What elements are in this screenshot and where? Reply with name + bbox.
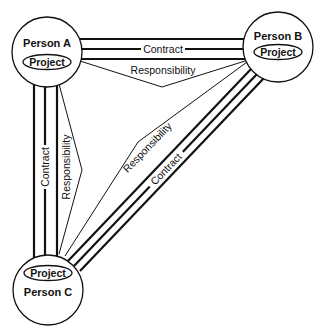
node-person-b: Person B Project (243, 12, 313, 82)
node-person-a: Person A Project (12, 17, 82, 87)
edge-a-c: Contract Responsibility (34, 84, 82, 258)
ac-contract-label: Contract (39, 147, 51, 187)
project-c-label: Project (30, 267, 66, 279)
ab-contract-label: Contract (143, 43, 183, 55)
bc-line-1 (68, 68, 252, 261)
person-a-label: Person A (23, 37, 71, 49)
bc-responsibility-shape (65, 62, 247, 256)
edge-b-c: Contract Responsibility (65, 62, 264, 271)
ab-responsibility-label: Responsibility (131, 64, 197, 76)
project-b-label: Project (260, 46, 296, 58)
relationship-diagram: Contract Responsibility Contract Respons… (0, 0, 323, 334)
person-b-label: Person B (254, 30, 302, 42)
project-a-label: Project (29, 56, 65, 68)
person-a-circle (12, 17, 82, 87)
bc-line-3 (80, 78, 264, 271)
person-c-label: Person C (24, 286, 72, 298)
edge-a-b: Contract Responsibility (80, 39, 245, 87)
node-person-c: Project Person C (13, 255, 83, 325)
ac-responsibility-label: Responsibility (60, 134, 72, 200)
